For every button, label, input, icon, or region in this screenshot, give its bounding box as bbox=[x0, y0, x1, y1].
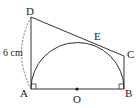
semicircle-arc bbox=[31, 43, 124, 90]
dimension-arc-AD bbox=[22, 17, 32, 89]
right-angle-marker-B bbox=[119, 84, 124, 89]
label-B: B bbox=[125, 87, 132, 99]
label-E: E bbox=[94, 30, 101, 42]
label-C: C bbox=[127, 48, 134, 60]
segment-DC bbox=[31, 17, 124, 56]
label-measurement-AD: 6 cm bbox=[3, 47, 23, 58]
geometry-diagram: D E C A B O 6 cm bbox=[0, 0, 140, 108]
right-angle-marker-A bbox=[31, 84, 36, 89]
label-O: O bbox=[73, 93, 81, 105]
label-D: D bbox=[26, 5, 34, 17]
label-A: A bbox=[20, 87, 28, 99]
center-point-O bbox=[75, 87, 78, 90]
